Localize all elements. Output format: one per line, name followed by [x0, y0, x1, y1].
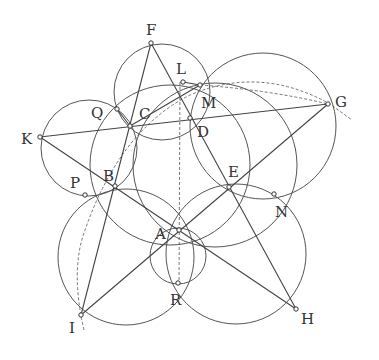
- point-N: [272, 192, 276, 196]
- circle-3: [190, 53, 336, 199]
- label-N: N: [275, 203, 288, 221]
- point-L: [181, 80, 185, 84]
- label-C: C: [139, 105, 150, 123]
- label-L: L: [176, 60, 186, 78]
- label-G: G: [335, 93, 347, 111]
- segment-QC: [117, 109, 130, 126]
- label-I: I: [69, 319, 75, 337]
- point-labels: FLMQCDGKBPENARIH: [21, 21, 347, 337]
- point-F: [149, 41, 153, 45]
- label-D: D: [197, 123, 209, 141]
- segment-KG: [40, 104, 328, 137]
- segment-FH: [151, 43, 296, 309]
- dashed-curve-2: [179, 82, 180, 285]
- point-I: [79, 313, 83, 317]
- label-H: H: [301, 310, 314, 328]
- point-H: [294, 307, 298, 311]
- points: [38, 41, 330, 317]
- circles: [41, 44, 336, 325]
- point-D: [188, 116, 192, 120]
- label-A: A: [154, 225, 166, 243]
- geometry-diagram: FLMQCDGKBPENARIH: [0, 0, 379, 360]
- label-R: R: [170, 291, 182, 309]
- label-E: E: [228, 163, 239, 181]
- label-Q: Q: [91, 104, 103, 122]
- point-A: [177, 228, 181, 232]
- point-R: [176, 281, 180, 285]
- point-G: [326, 102, 330, 106]
- point-P: [83, 193, 87, 197]
- label-B: B: [103, 167, 114, 185]
- label-P: P: [70, 174, 80, 192]
- point-E: [227, 185, 231, 189]
- point-Q: [115, 107, 119, 111]
- point-K: [38, 135, 42, 139]
- dashed-curve-1: [200, 85, 328, 104]
- circle-5: [90, 85, 250, 245]
- segment-KH: [40, 137, 296, 309]
- label-F: F: [146, 21, 156, 39]
- point-M: [198, 83, 202, 87]
- label-M: M: [201, 94, 216, 112]
- label-K: K: [21, 130, 33, 148]
- point-C: [128, 124, 132, 128]
